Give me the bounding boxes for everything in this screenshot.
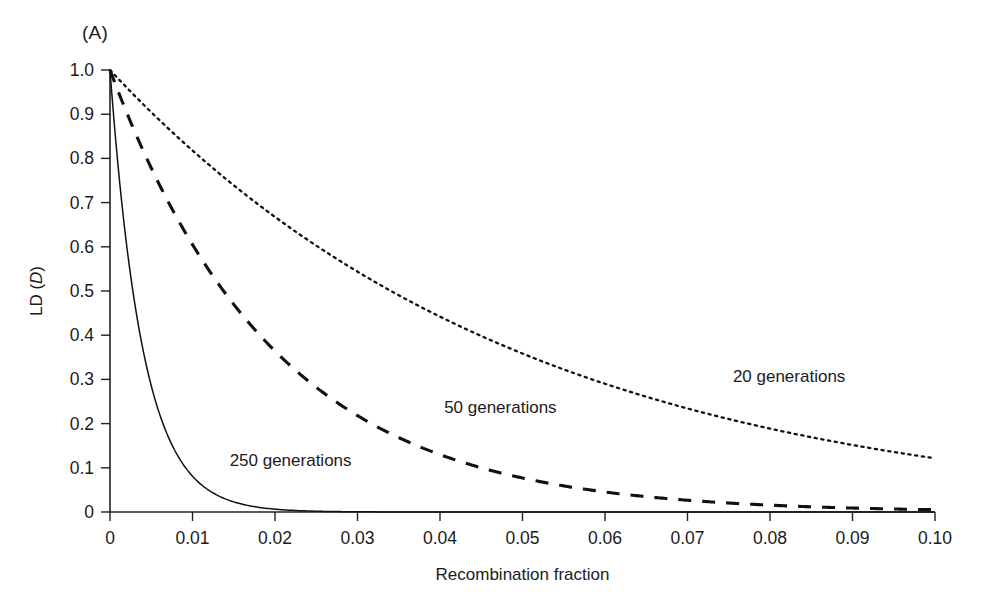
y-tick-label: 0.8 — [70, 148, 94, 168]
y-tick-label: 0.6 — [70, 237, 94, 257]
x-tick-label: 0.06 — [588, 528, 622, 548]
y-axis-title-suffix: ) — [27, 266, 46, 272]
y-axis-title-symbol: D — [27, 272, 46, 284]
y-axis-tick-labels: 00.10.20.30.40.50.60.70.80.91.0 — [70, 60, 95, 522]
x-tick-label: 0.02 — [258, 528, 292, 548]
y-tick-label: 0.5 — [70, 281, 94, 301]
y-axis-title: LD (D) — [27, 266, 46, 316]
y-tick-label: 0.7 — [70, 193, 94, 213]
svg-text:LD (D): LD (D) — [27, 266, 46, 316]
axes-group — [110, 70, 935, 512]
x-axis-title: Recombination fraction — [436, 565, 610, 584]
series-label-50-generations: 50 generations — [444, 398, 556, 417]
x-tick-label: 0 — [105, 528, 115, 548]
curve-50-generations — [110, 70, 935, 510]
x-tick-label: 0.09 — [835, 528, 869, 548]
x-tick-label: 0.04 — [423, 528, 457, 548]
y-tick-label: 0.3 — [70, 369, 94, 389]
y-axis-ticks — [101, 70, 110, 512]
x-tick-label: 0.05 — [505, 528, 539, 548]
x-tick-label: 0.03 — [340, 528, 374, 548]
y-tick-label: 0.1 — [70, 458, 94, 478]
y-tick-label: 0.4 — [70, 325, 95, 345]
data-curves — [110, 70, 935, 512]
y-tick-label: 0.9 — [70, 104, 94, 124]
x-tick-label: 0.08 — [753, 528, 787, 548]
chart-canvas: 00.010.020.030.040.050.060.070.080.090.1… — [0, 0, 991, 602]
y-tick-label: 0.2 — [70, 414, 94, 434]
y-tick-label: 1.0 — [70, 60, 95, 80]
series-annotations: 20 generations50 generations250 generati… — [230, 367, 846, 470]
x-tick-label: 0.10 — [918, 528, 952, 548]
curve-250-generations — [110, 70, 935, 512]
x-axis-ticks — [110, 512, 935, 521]
series-label-250-generations: 250 generations — [230, 451, 352, 470]
series-label-20-generations: 20 generations — [733, 367, 845, 386]
y-axis-title-prefix: LD ( — [27, 284, 46, 316]
ld-decay-figure: (A) 00.010.020.030.040.050.060.070.080.0… — [0, 0, 991, 602]
x-tick-label: 0.07 — [670, 528, 704, 548]
x-tick-label: 0.01 — [175, 528, 209, 548]
y-tick-label: 0 — [84, 502, 94, 522]
x-axis-tick-labels: 00.010.020.030.040.050.060.070.080.090.1… — [105, 528, 952, 548]
